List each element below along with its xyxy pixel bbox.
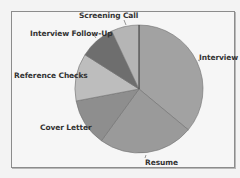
slice-label-screening-call: Screening Call — [79, 12, 138, 20]
slice-label-interview: Interview — [199, 54, 238, 62]
slice-label-resume: Resume — [145, 159, 178, 167]
slice-label-interview-follow-up: Interview Follow-Up — [30, 30, 112, 38]
slice-label-reference-checks: Reference Checks — [14, 72, 88, 80]
pie-slices — [75, 25, 203, 153]
slice-label-cover-letter: Cover Letter — [40, 124, 92, 132]
pie-chart — [0, 0, 240, 178]
